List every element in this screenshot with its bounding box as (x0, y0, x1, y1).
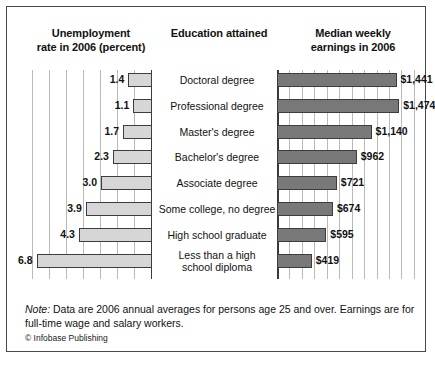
unemployment-bar-row: 2.3 (28, 150, 152, 164)
earnings-panel: $1,441$1,474$1,140$962$721$674$595$419 (277, 70, 418, 279)
earnings-bar-row: $1,140 (277, 125, 418, 139)
unemployment-value-label: 1.1 (115, 98, 130, 113)
unemployment-bar-row: 6.8 (28, 254, 152, 268)
note-label: Note: (25, 303, 50, 315)
earnings-value-label: $1,441 (401, 72, 433, 87)
earnings-value-label: $1,474 (403, 98, 435, 113)
earnings-bar-row: $1,441 (277, 73, 418, 87)
unemployment-bar (123, 125, 152, 139)
earnings-value-label: $595 (330, 227, 353, 242)
earnings-value-label: $674 (337, 201, 360, 216)
earnings-bar (277, 228, 326, 242)
unemployment-value-label: 1.7 (105, 124, 120, 139)
category-label: High school graduate (155, 229, 279, 241)
unemployment-bar-row: 4.3 (28, 228, 152, 242)
unemployment-value-label: 3.9 (67, 201, 82, 216)
earnings-bar-row: $1,474 (277, 99, 418, 113)
unemployment-bar (79, 228, 152, 242)
unemployment-value-label: 1.4 (110, 72, 125, 87)
unemployment-bar (113, 150, 152, 164)
earnings-bar (277, 125, 372, 139)
unemployment-bar-row: 1.4 (28, 73, 152, 87)
earnings-value-label: $1,140 (376, 124, 408, 139)
header-earnings: Median weeklyearnings in 2006 (283, 27, 423, 54)
unemployment-bar-row: 3.0 (28, 176, 152, 190)
note-body: Data are 2006 annual averages for person… (25, 303, 414, 329)
unemployment-value-label: 3.0 (82, 175, 97, 190)
category-labels: Doctoral degreeProfessional degreeMaster… (155, 65, 279, 287)
unemployment-bar-row: 1.1 (28, 99, 152, 113)
earnings-bar (277, 99, 399, 113)
note-text: Note: Data are 2006 annual averages for … (25, 303, 415, 330)
column-headers: Unemploymentrate in 2006 (percent) Educa… (7, 27, 425, 65)
earnings-bar-row: $419 (277, 254, 418, 268)
unemployment-bar-row: 3.9 (28, 202, 152, 216)
category-label: Doctoral degree (155, 74, 279, 86)
earnings-value-label: $721 (341, 175, 364, 190)
category-label: Associate degree (155, 177, 279, 189)
earnings-bar-row: $962 (277, 150, 418, 164)
earnings-bar (277, 202, 333, 216)
earnings-value-label: $962 (361, 149, 384, 164)
unemployment-bar (133, 99, 152, 113)
earnings-bar (277, 254, 312, 268)
unemployment-value-label: 2.3 (94, 149, 109, 164)
unemployment-value-label: 4.3 (60, 227, 75, 242)
unemployment-panel: 1.41.11.72.33.03.94.36.8 (28, 70, 152, 279)
footnote-block: Note: Data are 2006 annual averages for … (25, 303, 415, 344)
category-label: Bachelor's degree (155, 151, 279, 163)
earnings-bar-row: $721 (277, 176, 418, 190)
category-label: Professional degree (155, 100, 279, 112)
category-label: Less than a highschool diploma (155, 249, 279, 273)
category-label: Some college, no degree (155, 203, 279, 215)
earnings-bar (277, 150, 357, 164)
header-unemployment: Unemploymentrate in 2006 (percent) (13, 27, 169, 54)
unemployment-bar-row: 1.7 (28, 125, 152, 139)
earnings-bar-row: $595 (277, 228, 418, 242)
earnings-bar (277, 176, 337, 190)
unemployment-bar (101, 176, 152, 190)
earnings-bar (277, 73, 397, 87)
earnings-bar-row: $674 (277, 202, 418, 216)
header-education: Education attained (157, 27, 281, 41)
publisher-credit: © Infobase Publishing (25, 333, 415, 344)
earnings-value-label: $419 (316, 253, 339, 268)
unemployment-value-label: 6.8 (18, 253, 33, 268)
unemployment-bar (37, 254, 153, 268)
chart-frame: Unemploymentrate in 2006 (percent) Educa… (6, 6, 426, 352)
unemployment-bar (86, 202, 152, 216)
category-label: Master's degree (155, 126, 279, 138)
unemployment-bar (128, 73, 152, 87)
